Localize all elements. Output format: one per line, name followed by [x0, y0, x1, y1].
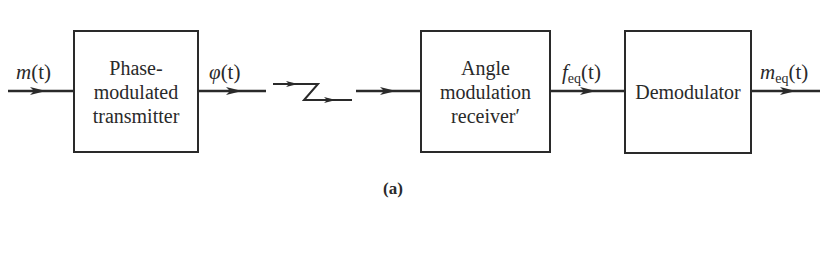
- signal-label-input: m(t): [16, 60, 51, 85]
- signal-arg: (t): [221, 60, 241, 84]
- signal-arg: (t): [31, 60, 51, 84]
- signal-arg: (t): [581, 60, 601, 84]
- signal-symbol: m: [760, 60, 775, 84]
- block-label: Demodulator: [635, 80, 741, 104]
- block-label: Angle modulation receiver′: [440, 56, 531, 128]
- figure-caption: (a): [383, 179, 403, 199]
- signal-subscript: eq: [568, 71, 581, 86]
- signal-label-rx-out: feq(t): [562, 60, 601, 87]
- signal-symbol: m: [16, 60, 31, 84]
- signal-arg: (t): [788, 60, 808, 84]
- angle-modulation-receiver-block: Angle modulation receiver′: [420, 30, 551, 153]
- block-diagram: Phase- modulated transmitter Angle modul…: [0, 0, 827, 278]
- demodulator-block: Demodulator: [624, 30, 752, 154]
- block-label: Phase- modulated transmitter: [93, 56, 180, 128]
- signal-label-output: meq(t): [760, 60, 808, 87]
- phase-modulated-transmitter-block: Phase- modulated transmitter: [73, 30, 199, 153]
- signal-label-tx-out: φ(t): [209, 60, 240, 85]
- signal-subscript: eq: [775, 71, 788, 86]
- signal-symbol: φ: [209, 60, 221, 84]
- channel-link-icon: [273, 81, 352, 103]
